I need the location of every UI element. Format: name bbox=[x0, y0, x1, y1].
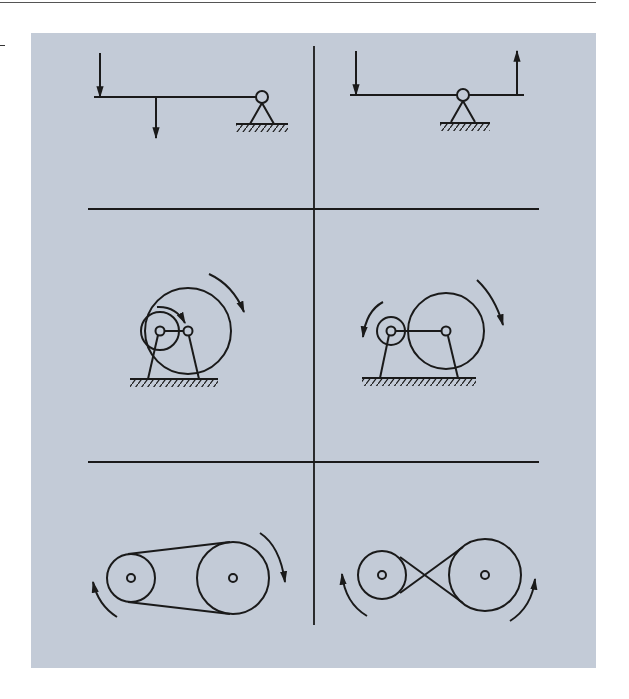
lever-class-1-panel bbox=[350, 51, 524, 131]
external-wheel-panel bbox=[362, 280, 503, 386]
mechanics-diagram bbox=[0, 0, 629, 699]
lever-class-2-panel bbox=[94, 53, 288, 138]
crossed-belt-panel bbox=[342, 539, 535, 621]
open-belt-panel bbox=[93, 533, 285, 617]
internal-wheel-panel bbox=[130, 274, 244, 387]
